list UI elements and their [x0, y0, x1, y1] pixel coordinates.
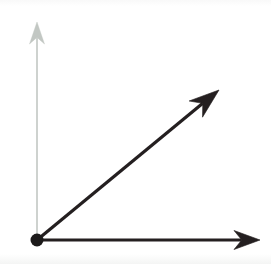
vector-diagram-canvas: [0, 0, 271, 264]
vector-diagram-svg: [0, 0, 271, 264]
origin-point-dot: [31, 234, 44, 247]
